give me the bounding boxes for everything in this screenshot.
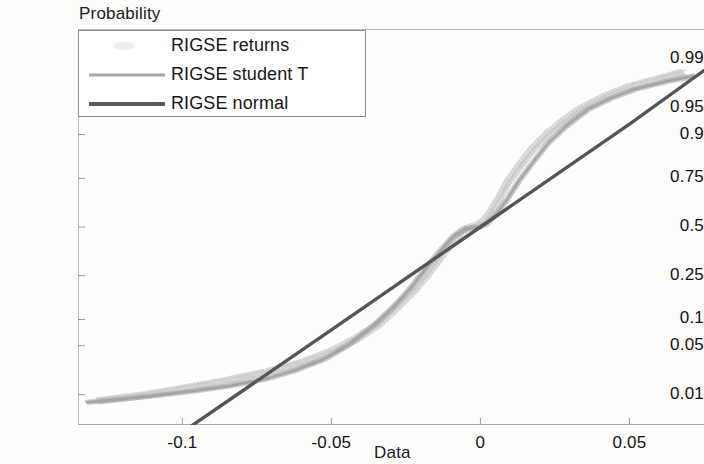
legend-marker-rigse-student-t [79, 60, 171, 89]
line-marker-icon [89, 102, 165, 106]
legend-item-rigse-normal: RIGSE normal [79, 89, 365, 118]
legend-label-rigse-normal: RIGSE normal [171, 93, 288, 114]
legend: RIGSE returns RIGSE student T RIGSE norm… [78, 30, 366, 117]
data-series-layer [78, 70, 704, 464]
normal-probability-plot-figure: Probability Data 0.990.950.90.750.50.250… [0, 0, 704, 464]
legend-item-rigse-student-t: RIGSE student T [79, 60, 365, 89]
series-rigse-student-t [87, 76, 695, 403]
series-rigse-returns [98, 71, 682, 399]
series-rigse-student-t [86, 74, 694, 401]
legend-marker-rigse-normal [79, 89, 171, 118]
line-marker-icon [89, 73, 165, 76]
legend-item-rigse-returns: RIGSE returns [79, 31, 365, 60]
series-rigse-student-t [88, 77, 696, 404]
series-rigse-returns [99, 72, 683, 400]
x-axis-title: Data [374, 443, 411, 463]
series-rigse-normal [78, 71, 704, 464]
series-rigse-returns [101, 70, 685, 398]
series-rigse-returns [101, 75, 685, 403]
y-axis-title: Probability [79, 4, 161, 24]
series-rigse-returns [100, 74, 684, 402]
series-rigse-returns [98, 74, 682, 402]
legend-label-rigse-returns: RIGSE returns [171, 35, 289, 56]
legend-marker-rigse-returns [79, 31, 171, 60]
legend-label-rigse-student-t: RIGSE student T [171, 64, 308, 85]
x-axis-tick-marks [182, 418, 629, 425]
dots-marker-icon [113, 42, 135, 49]
series-rigse-returns [97, 70, 681, 398]
